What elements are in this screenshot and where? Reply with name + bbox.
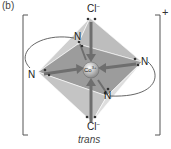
ligand-cl-top: Cl− [87,3,100,14]
complex-charge: + [162,6,168,18]
ligand-n-left: N [28,70,35,80]
isomer-caption: trans [78,134,100,145]
ligand-cl-bottom: Cl− [87,121,100,132]
metal-label: Co3+ [84,66,96,73]
ligand-n-right: N [141,57,148,67]
ligand-n-lower-right: N [104,91,111,101]
octahedral-complex-diagram [0,0,171,149]
ligand-n-upper-left: N [74,32,81,42]
